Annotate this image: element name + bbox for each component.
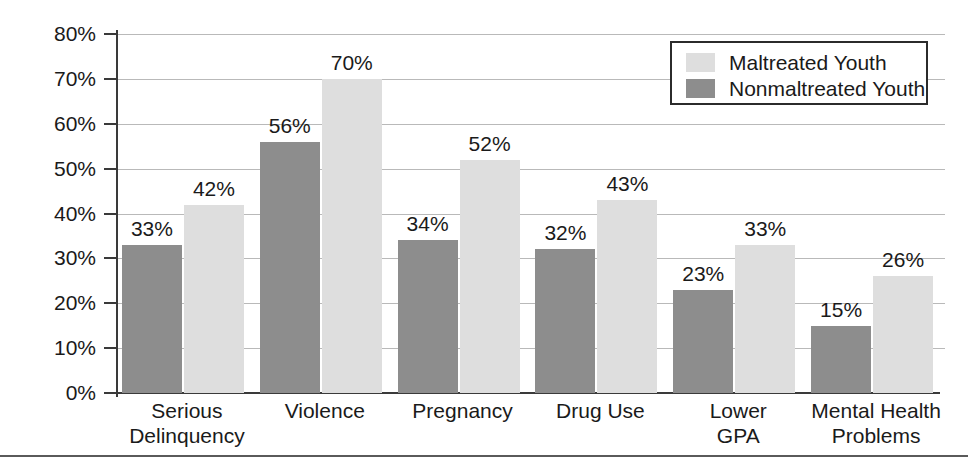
bar-nonmaltreated: [811, 326, 871, 393]
bar-maltreated: [460, 160, 520, 393]
bar-nonmaltreated: [673, 290, 733, 393]
bar-maltreated: [873, 276, 933, 393]
bar-value-label: 32%: [527, 222, 603, 243]
bar-maltreated: [184, 205, 244, 393]
gridline: [118, 169, 945, 170]
y-axis-tick-label: 10%: [0, 337, 96, 358]
bar-maltreated: [735, 245, 795, 393]
bar-value-label: 23%: [665, 263, 741, 284]
bar-maltreated: [322, 79, 382, 393]
y-axis-tick: [104, 213, 117, 215]
gridline: [118, 124, 945, 125]
chart-legend: Maltreated Youth Nonmaltreated Youth: [670, 41, 928, 105]
bar-nonmaltreated: [535, 249, 595, 393]
bar-value-label: 56%: [252, 115, 328, 136]
legend-label-maltreated: Maltreated Youth: [729, 52, 887, 73]
y-axis-tick-label: 0%: [0, 382, 96, 403]
category-label: Mental Health Problems: [793, 398, 959, 448]
y-axis-tick-label: 30%: [0, 247, 96, 268]
y-axis-tick: [104, 78, 117, 80]
y-axis-tick: [104, 392, 117, 394]
bar-value-label: 43%: [589, 173, 665, 194]
y-axis-tick-label: 20%: [0, 292, 96, 313]
bar-value-label: 15%: [803, 299, 879, 320]
legend-swatch-maltreated-icon: [686, 53, 715, 72]
bar-nonmaltreated: [398, 240, 458, 393]
legend-label-nonmaltreated: Nonmaltreated Youth: [729, 78, 925, 99]
bar-value-label: 33%: [114, 218, 190, 239]
bar-value-label: 70%: [314, 52, 390, 73]
bar-value-label: 42%: [176, 178, 252, 199]
legend-swatch-nonmaltreated-icon: [686, 79, 715, 98]
legend-item-maltreated: Maltreated Youth: [686, 50, 926, 75]
y-axis-tick-label: 40%: [0, 203, 96, 224]
footer-rule: [0, 455, 968, 457]
y-axis-tick: [104, 123, 117, 125]
bar-value-label: 52%: [452, 133, 528, 154]
y-axis-tick: [104, 33, 117, 35]
bar-value-label: 26%: [865, 249, 941, 270]
y-axis-tick: [104, 168, 117, 170]
legend-item-nonmaltreated: Nonmaltreated Youth: [686, 76, 926, 101]
y-axis-tick: [104, 347, 117, 349]
y-axis-tick-label: 70%: [0, 68, 96, 89]
bar-value-label: 33%: [727, 218, 803, 239]
bar-nonmaltreated: [122, 245, 182, 393]
bar-chart-figure: 0%10%20%30%40%50%60%70%80% 33%42%56%70%3…: [0, 0, 968, 462]
y-axis-tick: [104, 257, 117, 259]
bar-value-label: 34%: [390, 213, 466, 234]
bar-nonmaltreated: [260, 142, 320, 393]
gridline: [118, 34, 945, 35]
y-axis-tick: [104, 302, 117, 304]
y-axis-tick-label: 80%: [0, 23, 96, 44]
y-axis-tick-label: 50%: [0, 158, 96, 179]
bar-maltreated: [597, 200, 657, 393]
y-axis-tick-label: 60%: [0, 113, 96, 134]
